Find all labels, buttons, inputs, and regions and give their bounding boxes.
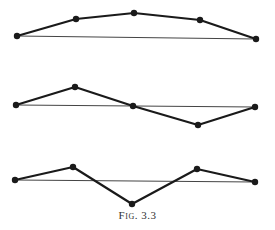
figure-caption: Fig. 3.3 bbox=[0, 209, 275, 221]
vertex-dot bbox=[72, 84, 78, 90]
figure-canvas bbox=[0, 0, 275, 230]
vertex-dot bbox=[70, 164, 76, 170]
vertex-dot bbox=[197, 17, 203, 23]
vertex-dot bbox=[12, 177, 18, 183]
vertex-dot bbox=[129, 201, 135, 207]
polyline bbox=[15, 167, 255, 204]
baseline bbox=[15, 180, 255, 182]
baseline bbox=[17, 36, 256, 39]
polyline-1 bbox=[14, 10, 259, 42]
vertex-dot bbox=[253, 36, 259, 42]
vertex-dot bbox=[131, 10, 137, 16]
vertex-dot bbox=[14, 33, 20, 39]
vertex-dot bbox=[252, 179, 258, 185]
polyline-3 bbox=[12, 164, 258, 207]
vertex-dot bbox=[13, 102, 19, 108]
vertex-dot bbox=[195, 122, 201, 128]
vertex-dot bbox=[73, 16, 79, 22]
polyline-2 bbox=[13, 84, 258, 128]
vertex-dot bbox=[130, 103, 136, 109]
polyline bbox=[17, 13, 256, 39]
vertex-dot bbox=[194, 166, 200, 172]
vertex-dot bbox=[252, 104, 258, 110]
